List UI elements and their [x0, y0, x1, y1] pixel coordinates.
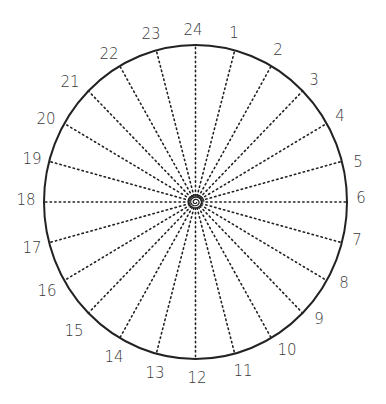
hour-label-14: 14 — [104, 350, 123, 365]
spoke-21 — [88, 91, 191, 198]
spoke-14 — [120, 207, 193, 338]
hour-label-21: 21 — [60, 75, 79, 90]
hour-label-23: 23 — [141, 27, 160, 42]
spoke-7 — [201, 204, 342, 243]
hour-label-17: 17 — [22, 241, 41, 256]
hour-label-3: 3 — [309, 73, 319, 88]
spoke-3 — [200, 91, 303, 198]
hour-label-6: 6 — [356, 191, 366, 206]
spoke-2 — [199, 66, 272, 197]
spoke-20 — [64, 124, 190, 200]
clock-diagram: 241234567891011121314151617181920212223 — [0, 0, 386, 404]
spoke-22 — [120, 66, 193, 197]
hour-label-9: 9 — [314, 312, 324, 327]
hour-label-11: 11 — [233, 364, 252, 379]
spoke-5 — [201, 161, 342, 200]
hour-label-22: 22 — [99, 47, 118, 62]
spoke-17 — [49, 204, 190, 243]
spoke-4 — [201, 124, 327, 200]
spoke-1 — [197, 50, 235, 196]
hour-label-7: 7 — [352, 233, 362, 248]
spoke-19 — [49, 161, 190, 200]
hour-label-16: 16 — [37, 284, 56, 299]
spoke-11 — [197, 208, 235, 354]
hour-label-18: 18 — [16, 193, 35, 208]
spoke-9 — [200, 206, 303, 313]
spoke-10 — [199, 207, 272, 338]
hour-label-15: 15 — [64, 324, 83, 339]
hour-label-8: 8 — [339, 276, 349, 291]
hour-label-24: 24 — [183, 23, 202, 38]
spoke-23 — [156, 50, 194, 196]
dotted-spokes — [44, 45, 347, 359]
spoke-15 — [88, 206, 191, 313]
hour-label-5: 5 — [353, 155, 363, 170]
hour-label-19: 19 — [22, 152, 41, 167]
hour-label-4: 4 — [335, 109, 345, 124]
hour-label-2: 2 — [273, 43, 283, 58]
spoke-8 — [201, 205, 327, 281]
hour-label-12: 12 — [187, 371, 206, 386]
hour-label-1: 1 — [229, 26, 239, 41]
spoke-13 — [156, 208, 194, 354]
hour-label-10: 10 — [277, 343, 296, 358]
clock-dial — [0, 0, 386, 404]
hour-label-13: 13 — [145, 366, 164, 381]
hour-label-20: 20 — [36, 112, 55, 127]
spoke-16 — [64, 205, 190, 281]
